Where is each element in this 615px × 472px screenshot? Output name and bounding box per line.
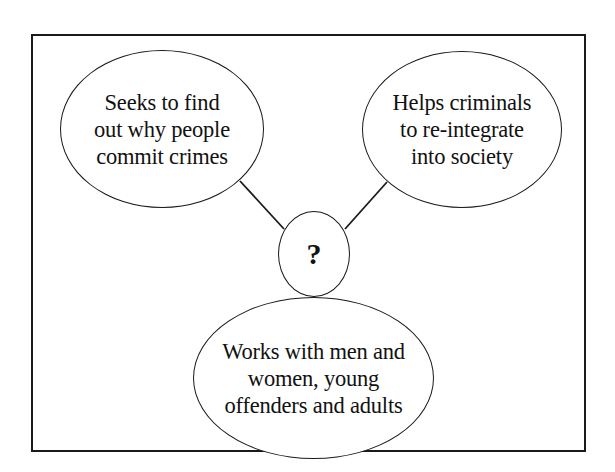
node-text-line: commit crimes <box>96 143 228 170</box>
node-text-line: Helps criminals <box>393 89 532 116</box>
question-mark-label: ? <box>307 239 322 269</box>
node-text-line: Seeks to find <box>105 89 220 116</box>
center-node-question: ? <box>278 211 350 297</box>
node-text-line: out why people <box>94 116 230 143</box>
node-text-line: Works with men and <box>222 338 405 365</box>
node-text-line: offenders and adults <box>224 392 402 419</box>
concept-node-right: Helps criminals to re-integrate into soc… <box>362 51 562 208</box>
node-text-line: to re-integrate <box>400 116 524 143</box>
concept-node-left: Seeks to find out why people commit crim… <box>60 50 264 208</box>
edge-center-right <box>345 182 387 229</box>
edge-center-left <box>240 181 284 229</box>
node-text-line: women, young <box>248 365 379 392</box>
node-text-line: into society <box>411 143 513 170</box>
concept-node-bottom: Works with men and women, young offender… <box>193 297 434 459</box>
